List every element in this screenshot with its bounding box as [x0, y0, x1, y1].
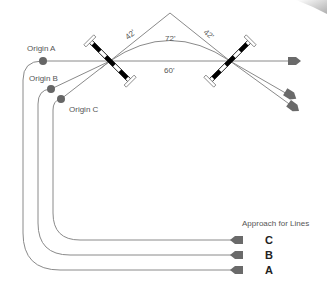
exit-line-2 [230, 61, 292, 106]
origin-c-label: Origin C [69, 105, 99, 114]
approach-line-a [23, 61, 232, 270]
straight-distance: 60' [164, 66, 175, 75]
curve-72 [110, 41, 230, 62]
exit-arrow-2 [286, 100, 301, 114]
origin-b-dot [47, 85, 55, 93]
legend-title: Approach for Lines [242, 219, 309, 228]
approach-arrow-b [230, 251, 243, 259]
exit-arrow-straight [288, 57, 301, 65]
approach-line-b [38, 89, 232, 255]
right-leg-42 [170, 13, 230, 61]
approach-arrow-a [230, 266, 243, 274]
approach-line-c [53, 99, 232, 240]
origin-a-label: Origin A [27, 44, 56, 53]
page-curl-decoration [296, 0, 327, 14]
approach-lines-diagram: Origin A Origin B Origin C 42' 42' 72' 6… [0, 0, 327, 294]
left-leg-42 [110, 13, 170, 61]
origin-a-dot [39, 57, 47, 65]
legend-label-b: B [265, 249, 273, 261]
curve-distance: 72' [165, 34, 176, 43]
origin-c-dot [57, 95, 65, 103]
legend-label-c: C [265, 234, 273, 246]
left-leg-distance: 42' [124, 28, 138, 42]
origin-b-label: Origin B [29, 74, 58, 83]
exit-arrow-1 [283, 88, 298, 102]
exit-line-1 [230, 61, 289, 95]
approach-arrow-c [230, 236, 243, 244]
legend-label-a: A [265, 264, 273, 276]
origin-b-to-pylon [51, 61, 110, 89]
